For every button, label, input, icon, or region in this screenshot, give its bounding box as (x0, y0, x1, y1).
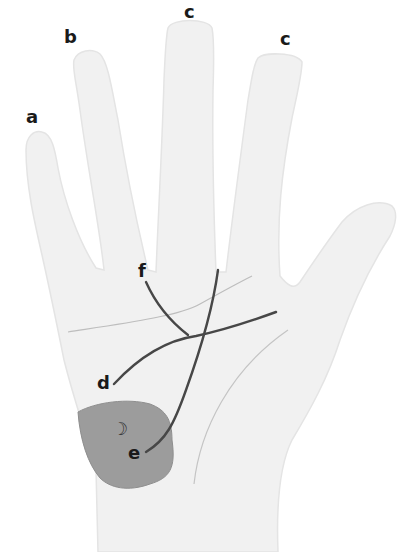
label-c-ring: c (280, 30, 291, 48)
hand-illustration (0, 0, 420, 552)
label-c-middle: c (184, 3, 195, 21)
palm-diagram: a b c c d e f ☽ (0, 0, 420, 552)
label-a: a (26, 108, 38, 126)
label-d: d (97, 374, 110, 392)
label-f: f (138, 262, 146, 280)
hand-shape (26, 21, 396, 552)
label-e: e (128, 444, 140, 462)
moon-icon: ☽ (112, 420, 128, 438)
mount-of-moon (78, 401, 173, 488)
label-b: b (64, 28, 77, 46)
